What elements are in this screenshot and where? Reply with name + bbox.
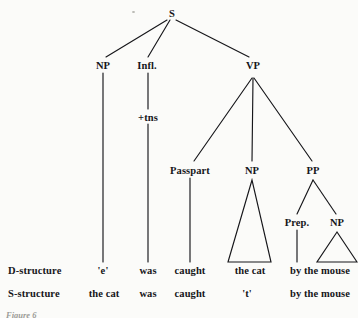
tree-node-np2: NP xyxy=(245,165,259,176)
tree-node-infl: Infl. xyxy=(137,60,156,71)
leaf-word-d-structure-0: 'e' xyxy=(98,265,109,276)
tree-edge-vp-to-passpart xyxy=(194,78,252,161)
leaf-word-d-structure-3: the cat xyxy=(235,265,266,276)
tree-edge-pp-to-np3 xyxy=(313,180,336,214)
leaf-word-s-structure-3: 't' xyxy=(242,288,252,299)
tree-node-vp: VP xyxy=(246,60,260,71)
tree-node-np1: NP xyxy=(96,60,110,71)
row-label-s-structure: S-structure xyxy=(8,288,60,299)
tree-node-np3: NP xyxy=(330,217,344,228)
tree-node-tns: +tns xyxy=(138,112,158,123)
tree-edge-pp-to-prep xyxy=(297,180,313,214)
leaf-word-s-structure-2: caught xyxy=(175,288,206,299)
np2-triangle xyxy=(228,180,271,262)
row-label-d-structure: D-structure xyxy=(8,265,61,276)
syntax-tree-figure: SNPInfl.VP+tnsPasspartNPPPPrep.NP D-stru… xyxy=(0,0,358,318)
tree-node-pp: PP xyxy=(306,165,319,176)
leaf-word-d-structure-1: was xyxy=(139,265,156,276)
tree-edge-s-to-infl xyxy=(148,20,170,57)
np3-triangle xyxy=(317,232,357,262)
leaf-word-d-structure-2: caught xyxy=(175,265,206,276)
tree-edge-vp-to-pp xyxy=(254,78,312,161)
figure-caption: Figure 6 xyxy=(6,310,70,318)
tree-edge-vp-to-np2 xyxy=(252,78,253,161)
leaf-word-s-structure-4: by the mouse xyxy=(290,288,350,299)
scan-speck xyxy=(132,11,135,13)
tree-node-s: S xyxy=(169,8,175,19)
leaf-word-s-structure-0: the cat xyxy=(89,288,120,299)
tree-node-passpart: Passpart xyxy=(170,165,210,176)
leaf-word-s-structure-1: was xyxy=(139,288,156,299)
tree-node-prep: Prep. xyxy=(285,217,310,228)
tree-edge-s-to-np1 xyxy=(106,20,167,57)
tree-edge-s-to-vp xyxy=(176,20,249,57)
leaf-word-d-structure-4: by the mouse xyxy=(290,265,350,276)
